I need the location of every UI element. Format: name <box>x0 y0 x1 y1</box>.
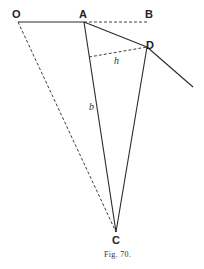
label-b: b <box>89 101 94 112</box>
label-h: h <box>114 55 119 66</box>
geometry-figure: O A B D C h b Fig. 70. <box>0 0 204 269</box>
label-point-c: C <box>112 234 120 246</box>
segment-d-extension <box>147 47 193 87</box>
segment-o-c-dashed <box>18 22 116 232</box>
figure-caption: Fig. 70. <box>104 250 131 259</box>
segment-d-c <box>116 47 147 232</box>
label-point-a: A <box>79 8 87 20</box>
label-point-o: O <box>12 8 21 20</box>
label-point-d: D <box>146 39 154 51</box>
label-point-b: B <box>145 8 153 20</box>
segment-a-d <box>84 22 147 47</box>
